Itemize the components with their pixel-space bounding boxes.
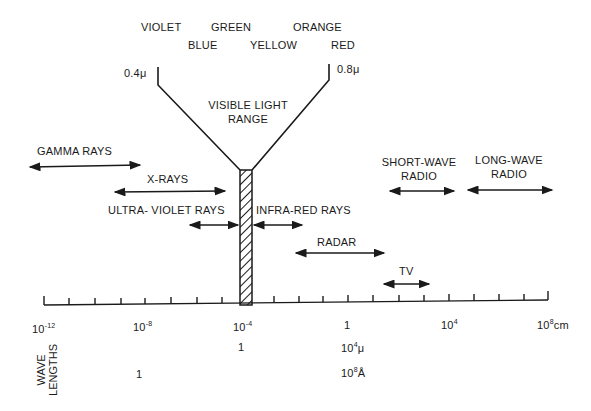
- wave-label: WAVE: [35, 342, 47, 398]
- color-yellow: YELLOW: [250, 40, 297, 51]
- tick-1e-8: 10-8: [133, 320, 152, 333]
- tick-1: 1: [344, 320, 350, 331]
- lengths-label: LENGTHS: [47, 342, 59, 398]
- color-green: GREEN: [211, 22, 251, 33]
- uv-label: ULTRA- VIOLET RAYS: [108, 205, 225, 216]
- tick-1e-12: 10-12: [32, 322, 55, 335]
- visible-title-2: RANGE: [203, 114, 293, 125]
- micron-1e4: 104μ: [341, 341, 364, 354]
- color-blue: BLUE: [188, 40, 218, 51]
- visible-lower-bound: 0.4μ: [124, 68, 146, 79]
- gamma-label: GAMMA RAYS: [37, 146, 112, 157]
- radar-label: RADAR: [317, 237, 357, 248]
- gamma-arrow: [30, 165, 140, 167]
- long-wave-label-2: RADIO: [468, 169, 550, 180]
- tick-1e-4: 10-4: [233, 320, 252, 333]
- visible-upper-bound: 0.8μ: [337, 64, 359, 75]
- tick-1e4: 104: [441, 318, 458, 331]
- xray-label: X-RAYS: [147, 174, 188, 185]
- long-wave-label-1: LONG-WAVE: [468, 155, 550, 166]
- short-wave-label-2: RADIO: [374, 171, 464, 182]
- angstrom-1e8: 108Å: [341, 366, 365, 379]
- short-wave-label-1: SHORT-WAVE: [374, 157, 464, 168]
- xray-arrow: [115, 191, 225, 192]
- angstrom-1: 1: [136, 369, 142, 380]
- visible-band-hatch: [240, 170, 252, 305]
- tv-label: TV: [399, 266, 413, 277]
- wave-lengths-label: WAVE LENGTHS: [35, 342, 59, 398]
- tick-1e8-cm: 108cm: [537, 318, 569, 331]
- color-orange: ORANGE: [293, 22, 342, 33]
- wavelength-axis: [44, 291, 548, 305]
- visible-title-1: VISIBLE LIGHT: [203, 100, 293, 111]
- color-violet: VIOLET: [141, 22, 181, 33]
- micron-1: 1: [238, 342, 244, 353]
- color-red: RED: [331, 40, 355, 51]
- ir-label: INFRA-RED RAYS: [256, 205, 351, 216]
